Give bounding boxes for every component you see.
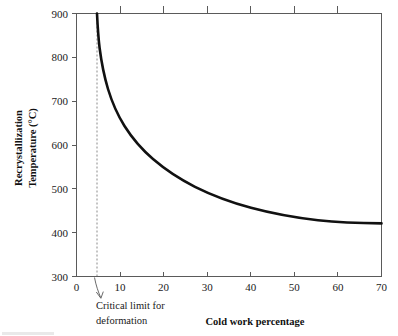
x-axis-ticks xyxy=(77,272,382,277)
y-axis-tick-labels: 900 800 700 600 500 400 300 xyxy=(52,8,69,283)
annotation-line-2: deformation xyxy=(96,315,148,326)
y-axis-title-line-2: Temperature (°C) xyxy=(27,108,39,188)
y-tick-label-800: 800 xyxy=(52,51,69,63)
x-tick-label-30: 30 xyxy=(202,281,214,293)
y-tick-label-900: 900 xyxy=(52,8,69,20)
x-tick-label-70: 70 xyxy=(376,281,388,293)
critical-limit-annotation-text: Critical limit for deformation xyxy=(96,300,165,326)
x-tick-label-40: 40 xyxy=(245,281,257,293)
y-tick-label-600: 600 xyxy=(52,139,69,151)
x-tick-label-20: 20 xyxy=(158,281,170,293)
plot-frame xyxy=(77,14,382,277)
x-tick-label-10: 10 xyxy=(115,281,127,293)
y-axis-title-line-1: Recrystallization xyxy=(13,110,24,186)
x-tick-label-60: 60 xyxy=(332,281,344,293)
x-axis-tick-labels: 0 10 20 30 40 50 60 70 xyxy=(74,281,388,293)
y-axis-title: Recrystallization Temperature (°C) xyxy=(13,108,39,188)
scan-edge-artifact xyxy=(2,332,54,335)
x-tick-label-50: 50 xyxy=(289,281,301,293)
y-tick-label-700: 700 xyxy=(52,95,69,107)
recrystallization-curve xyxy=(97,14,382,224)
chart-figure: 900 800 700 600 500 400 300 xyxy=(0,0,398,336)
y-axis-ticks xyxy=(72,14,77,277)
recrystallization-temperature-chart: 900 800 700 600 500 400 300 xyxy=(0,0,398,336)
y-tick-label-500: 500 xyxy=(52,183,69,195)
arrow-shaft xyxy=(95,278,101,298)
x-tick-label-0: 0 xyxy=(74,281,80,293)
y-tick-label-400: 400 xyxy=(52,227,69,239)
x-axis-title: Cold work percentage xyxy=(206,316,305,327)
critical-limit-arrow xyxy=(95,278,104,299)
annotation-line-1: Critical limit for xyxy=(96,300,165,311)
y-tick-label-300: 300 xyxy=(52,271,69,283)
top-axis-ticks xyxy=(120,6,338,14)
